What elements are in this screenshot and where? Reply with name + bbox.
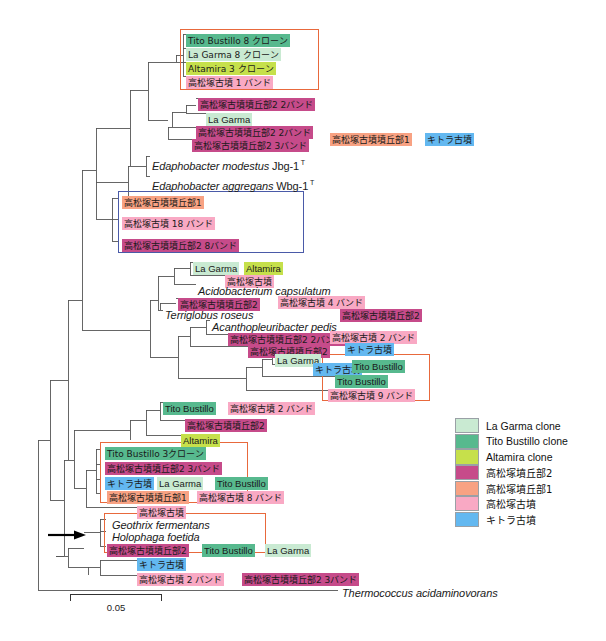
species-name: Edaphobacter modestus Jbg-1 T bbox=[150, 156, 307, 172]
legend-item-altamira: Altamira clone bbox=[455, 449, 603, 465]
legend-swatch-tito bbox=[455, 434, 479, 449]
taxon-label: 高松塚古墳墳丘部2 2バンド bbox=[198, 98, 315, 111]
taxon-label: 高松塚古墳 8 バンド bbox=[197, 491, 284, 504]
taxon-label: La Garma bbox=[193, 262, 239, 275]
legend-label-tak1: 高松塚墳丘部1 bbox=[486, 481, 552, 496]
species-strain: Wbg-1 bbox=[273, 179, 308, 191]
species-strain: Jbg-1 bbox=[269, 159, 299, 171]
taxon-label: 高松塚古墳墳丘部2 3バンド bbox=[192, 139, 309, 152]
species-binomial: Holophaga foetida bbox=[112, 531, 200, 543]
taxon-label: La Garma bbox=[265, 544, 311, 557]
legend: La Garma cloneTito Bustillo cloneAltamir… bbox=[455, 418, 603, 527]
taxon-label: Tito Bustillo bbox=[215, 477, 268, 490]
legend-swatch-tak2 bbox=[455, 465, 479, 480]
taxon-label: 高松塚古墳墳丘部1 bbox=[330, 133, 412, 146]
figure-canvas: Tito Bustillo 8 クローンLa Garma 8 クローンAltam… bbox=[0, 0, 606, 641]
clade-arrow-marker bbox=[48, 531, 86, 540]
scale-bar: 0.05 bbox=[70, 594, 162, 613]
taxon-label: キトラ古墳 bbox=[137, 558, 186, 571]
taxon-label: Tito Bustillo bbox=[202, 544, 255, 557]
taxon-label: 高松塚古墳 1 バンド bbox=[186, 76, 273, 89]
legend-label-takkofun: 高松塚古墳 bbox=[486, 496, 536, 511]
taxon-label: 高松塚古墳 9 バンド bbox=[328, 389, 415, 402]
legend-item-tito: Tito Bustillo clone bbox=[455, 434, 603, 450]
taxon-label: 高松塚古墳 2 バンド bbox=[228, 402, 315, 415]
taxon-label: 高松塚古墳墳丘部1 bbox=[122, 196, 204, 209]
legend-item-tak1: 高松塚墳丘部1 bbox=[455, 480, 603, 496]
legend-label-tito: Tito Bustillo clone bbox=[486, 435, 568, 447]
species-binomial: Acidobacterium capsulatum bbox=[198, 285, 331, 297]
taxon-label: La Garma bbox=[206, 113, 252, 126]
species-name: Edaphobacter aggregans Wbg-1 T bbox=[150, 176, 316, 192]
taxon-label: キトラ古墳 bbox=[345, 343, 394, 356]
legend-item-tak2: 高松塚墳丘部2 bbox=[455, 465, 603, 481]
taxon-label: Altamira 3 クローン bbox=[186, 62, 276, 75]
legend-item-lagarma: La Garma clone bbox=[455, 418, 603, 434]
legend-label-altamira: Altamira clone bbox=[486, 451, 553, 463]
taxon-label: 高松塚古墳墳丘部2 bbox=[185, 419, 267, 432]
taxon-label: 高松塚古墳墳丘部2 bbox=[107, 544, 189, 557]
legend-swatch-altamira bbox=[455, 449, 479, 464]
scale-bar-value: 0.05 bbox=[70, 602, 162, 613]
taxon-label: 高松塚古墳墳丘部2 3バンド bbox=[242, 573, 359, 586]
species-binomial: Edaphobacter aggregans bbox=[152, 179, 273, 191]
legend-label-tak2: 高松塚墳丘部2 bbox=[486, 465, 552, 480]
taxon-label: キトラ古墳 bbox=[425, 133, 474, 146]
species-binomial: Acanthopleuribacter pedis bbox=[212, 321, 337, 333]
legend-item-kitora: キトラ古墳 bbox=[455, 512, 603, 528]
species-binomial: Terriglobus roseus bbox=[165, 309, 253, 321]
species-binomial: Geothrix fermentans bbox=[112, 519, 210, 531]
taxon-label: 高松塚古墳 18 バンド bbox=[122, 217, 215, 230]
legend-swatch-lagarma bbox=[455, 418, 479, 433]
taxon-label: La Garma bbox=[157, 477, 203, 490]
scale-bar-line bbox=[70, 594, 162, 601]
legend-swatch-kitora bbox=[455, 512, 479, 527]
species-name: Acidobacterium capsulatum bbox=[196, 284, 333, 297]
taxon-label: 高松塚古墳 2 バンド bbox=[137, 573, 224, 586]
type-strain-superscript: T bbox=[308, 179, 314, 186]
taxon-label: 高松塚古墳墳丘部2 2バンド bbox=[196, 126, 313, 139]
species-name: Holophaga foetida bbox=[110, 530, 202, 543]
taxon-label: Altamira bbox=[181, 434, 220, 447]
species-name: Acanthopleuribacter pedis bbox=[210, 320, 339, 333]
taxon-label: Tito Bustillo 8 クローン bbox=[186, 34, 290, 47]
taxon-label: La Garma 8 クローン bbox=[186, 48, 281, 61]
taxon-label: 高松塚古墳墳丘部2 3バンド bbox=[105, 462, 222, 475]
taxon-label: 高松塚古墳墳丘部2 bbox=[340, 309, 422, 322]
taxon-label: Altamira bbox=[244, 262, 283, 275]
taxon-label: Tito Bustillo bbox=[352, 360, 405, 373]
taxon-label: キトラ古墳 bbox=[105, 477, 154, 490]
taxon-label: Tito Bustillo bbox=[163, 402, 216, 415]
species-binomial: Edaphobacter modestus bbox=[152, 159, 269, 171]
taxon-label: Tito Bustillo 3クローン bbox=[105, 447, 206, 460]
type-strain-superscript: T bbox=[299, 159, 305, 166]
taxon-label: 高松塚古墳墳丘部2 8バンド bbox=[122, 239, 239, 252]
species-name: Thermococcus acidaminovorans bbox=[340, 586, 500, 599]
legend-swatch-tak1 bbox=[455, 481, 479, 496]
legend-label-lagarma: La Garma clone bbox=[486, 420, 561, 432]
legend-item-takkofun: 高松塚古墳 bbox=[455, 496, 603, 512]
species-binomial: Thermococcus acidaminovorans bbox=[342, 587, 498, 599]
taxon-label: Tito Bustillo bbox=[335, 375, 388, 388]
legend-label-kitora: キトラ古墳 bbox=[486, 512, 536, 527]
taxon-label: 高松塚古墳墳丘部1 bbox=[107, 491, 189, 504]
legend-swatch-takkofun bbox=[455, 496, 479, 511]
taxon-label: 高松塚古墳 4 バンド bbox=[278, 296, 365, 309]
